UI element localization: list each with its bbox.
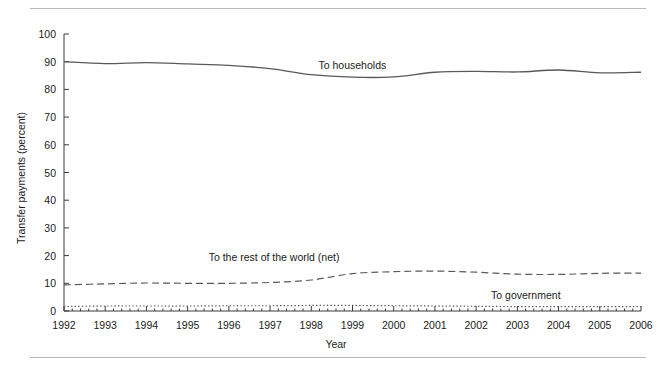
x-tick-label: 2004 [539, 320, 579, 331]
series-label-0: To households [316, 60, 390, 71]
x-tick-label: 2005 [580, 320, 620, 331]
y-tick-label: 30 [26, 223, 56, 234]
x-tick-label: 2001 [415, 320, 455, 331]
x-tick-label: 1996 [209, 320, 249, 331]
x-tick-label: 1993 [85, 320, 125, 331]
x-axis-label: Year [0, 338, 672, 350]
x-tick-label: 2002 [456, 320, 496, 331]
y-tick-label: 80 [26, 84, 56, 95]
series-label-2: To government [488, 290, 563, 301]
y-tick-label: 60 [26, 140, 56, 151]
x-tick-label: 1998 [291, 320, 331, 331]
x-tick-label: 1999 [333, 320, 373, 331]
x-tick-label: 1995 [168, 320, 208, 331]
chart-plot-area [0, 0, 672, 373]
x-tick-label: 2006 [621, 320, 661, 331]
x-tick-label: 1994 [126, 320, 166, 331]
figure-container: 0102030405060708090100199219931994199519… [0, 0, 672, 373]
y-tick-label: 20 [26, 251, 56, 262]
y-tick-label: 90 [26, 57, 56, 68]
series-label-1: To the rest of the world (net) [206, 252, 343, 263]
x-tick-label: 2000 [374, 320, 414, 331]
x-tick-label: 2003 [497, 320, 537, 331]
series-line-1 [64, 271, 641, 285]
y-tick-label: 0 [26, 306, 56, 317]
y-tick-label: 10 [26, 278, 56, 289]
x-tick-label: 1992 [44, 320, 84, 331]
x-tick-label: 1997 [250, 320, 290, 331]
y-tick-label: 40 [26, 195, 56, 206]
y-tick-label: 100 [26, 29, 56, 40]
y-tick-label: 70 [26, 112, 56, 123]
y-axis-label: Transfer payments (percent) [15, 103, 27, 253]
y-tick-label: 50 [26, 168, 56, 179]
